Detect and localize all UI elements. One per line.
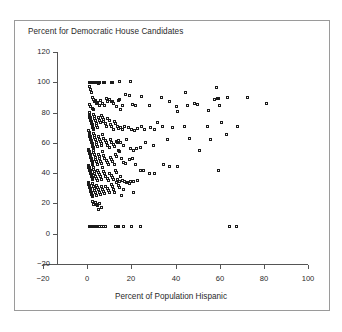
y-axis-line [57,52,58,265]
y-tick-mark [53,203,57,204]
page-title: Percent for Democratic House Candidates [28,27,183,36]
x-tick-mark [220,265,221,269]
y-tick-mark [53,173,57,174]
x-axis-title: Percent of Population Hispanic [0,292,342,301]
y-tick-mark [53,52,57,53]
x-tick-mark [308,265,309,269]
y-tick-mark [53,264,57,265]
x-tick-label: 0 [72,274,102,283]
y-tick-label: 100 [26,77,50,86]
y-tick-mark [53,113,57,114]
figure-border [14,20,330,311]
y-tick-mark [53,143,57,144]
y-tick-label: −20 [26,259,50,268]
x-tick-mark [176,265,177,269]
x-tick-mark [131,265,132,269]
x-tick-mark [87,265,88,269]
y-tick-label: 40 [26,168,50,177]
x-tick-label: 80 [249,274,279,283]
y-tick-label: 120 [26,47,50,56]
x-tick-label: 100 [293,274,323,283]
x-tick-label: 60 [205,274,235,283]
y-tick-label: 60 [26,138,50,147]
y-tick-label: 80 [26,108,50,117]
y-tick-mark [53,82,57,83]
x-tick-label: 20 [116,274,146,283]
x-tick-label: 40 [161,274,191,283]
x-tick-mark [43,265,44,269]
figure-canvas: Percent for Democratic House Candidates … [0,0,342,332]
y-tick-label: 20 [26,198,50,207]
y-tick-label: 0 [26,229,50,238]
y-tick-mark [53,234,57,235]
x-tick-label: −20 [28,274,58,283]
x-tick-mark [264,265,265,269]
